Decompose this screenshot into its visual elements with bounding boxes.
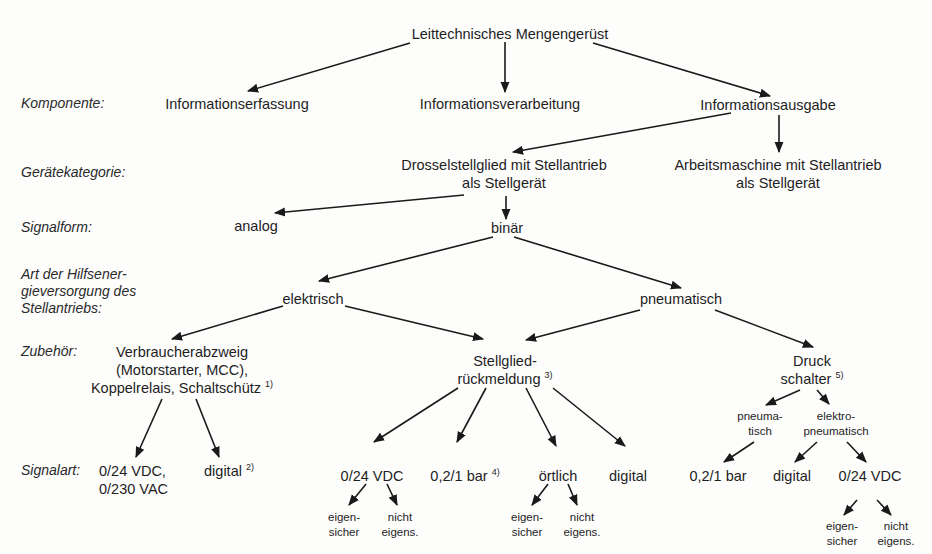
diagram-canvas: Komponente: Gerätekategorie: Signalform:… [0,0,932,554]
footnote-1: 1) [265,379,273,389]
row-label-komponente: Komponente: [21,95,104,112]
eigen-line2: sicher [826,534,858,549]
node-druckschalter: Druck schalter 5) [781,352,844,388]
node-drosselstellglied-line2: als Stellgerät [401,174,607,192]
row-label-signalform: Signalform: [21,219,92,236]
nicht-line2: eigens. [563,525,600,540]
node-pneumatisch-sub: pneuma- tisch [737,409,782,439]
eigen-line1: eigen- [511,510,543,525]
node-vdc-2: 0/24 VDC [341,467,404,485]
node-binaer: binär [491,219,523,237]
nicht-line2: eigens. [381,525,418,540]
node-eigensicher-3: eigen- sicher [826,519,858,549]
node-vdc-vac: 0/24 VDC, 0/230 VAC [99,462,168,498]
arrow-title-ausgabe [593,43,770,96]
eigen-line1: eigen- [826,519,858,534]
node-verbraucher-line3: Koppelrelais, Schaltschütz [91,380,261,396]
arrow-drossel-analog [275,195,464,213]
arrow-druck-elektro [817,390,829,404]
arrow-verbraucher-vdcvac [136,399,162,457]
nicht-line1: nicht [381,510,418,525]
node-informationsverarbeitung: Informationsverarbeitung [420,95,580,113]
node-vdc-vac-line1: 0/24 VDC, [99,462,168,480]
node-elektro-line1: elektro- [803,409,868,424]
node-nicht-eigens-3: nicht eigens. [877,519,914,549]
node-informationsausgabe: Informationsausgabe [700,96,835,114]
node-verbraucher-line1: Verbraucherabzweig [91,343,273,361]
node-digital-1-text: digital [204,463,242,479]
arrow-ausgabe-drossel [513,113,731,152]
node-verbraucherabzweig: Verbraucherabzweig (Motorstarter, MCC), … [91,343,273,397]
node-digital-2: digital [609,467,647,485]
node-nicht-eigens-2: nicht eigens. [563,510,600,540]
node-nicht-eigens-1: nicht eigens. [381,510,418,540]
arrow-vdc3-nicht [877,500,891,515]
node-eigensicher-2: eigen- sicher [511,510,543,540]
node-pneumatisch: pneumatisch [640,290,722,308]
node-bar-2: 0,2/1 bar [689,467,746,485]
arrow-binaer-pneumatisch [514,237,681,288]
node-druck-line1: Druck [781,352,844,370]
arrow-elektrisch-stellglied [345,306,483,339]
arrow-elektrisch-verbraucher [172,306,283,339]
node-eigensicher-1: eigen- sicher [328,510,360,540]
row-label-hilfsenergie-line1: Art der Hilfsener- [21,266,136,283]
node-stellglied-line1: Stellglied- [457,352,552,370]
arrow-stellglied-bar [457,388,486,442]
arrow-title-erfassung [248,43,410,91]
footnote-3: 3) [545,370,553,380]
node-arbeitsmaschine: Arbeitsmaschine mit Stellantrieb als Ste… [674,156,881,192]
nicht-line1: nicht [563,510,600,525]
nicht-line2: eigens. [877,534,914,549]
node-bar-1-text: 0,2/1 bar [430,468,487,484]
footnote-2: 2) [246,462,254,472]
node-vdc-3: 0/24 VDC [839,467,902,485]
row-label-hilfsenergie-line3: Stellantriebs: [21,300,136,317]
arrow-elektro-vdc [847,442,866,462]
node-stellglied-line2: rückmeldung [457,371,540,387]
footnote-4: 4) [492,467,500,477]
arrow-stellglied-digital [553,388,625,446]
node-stellgliedrueckmeldung: Stellglied- rückmeldung 3) [457,352,552,388]
node-vdc-vac-line2: 0/230 VAC [99,480,168,498]
row-label-hilfsenergie: Art der Hilfsener- gieversorgung des Ste… [21,266,136,317]
arrow-elektro-digital [795,442,817,462]
node-verbraucher-line2: (Motorstarter, MCC), [91,361,273,379]
row-label-geraetekategorie: Gerätekategorie: [21,164,125,181]
arrow-pneumatisch-stellglied [526,310,640,340]
arrow-stellglied-oertlich [526,388,556,446]
arrow-pneuma-bar [724,442,754,462]
nicht-line1: nicht [877,519,914,534]
node-elektropneumatisch: elektro- pneumatisch [803,409,868,439]
arrow-binaer-elektrisch [319,237,493,281]
eigen-line2: sicher [511,525,543,540]
arrow-vdc3-eigen [844,500,857,515]
node-arbeitsmaschine-line1: Arbeitsmaschine mit Stellantrieb [674,156,881,174]
node-drosselstellglied-line1: Drosselstellglied mit Stellantrieb [401,156,607,174]
arrow-vdc2-eigen [349,484,366,505]
arrow-pneumatisch-druck [715,310,813,347]
node-arbeitsmaschine-line2: als Stellgerät [674,174,881,192]
arrow-oertlich-eigen [532,484,548,505]
node-drosselstellglied: Drosselstellglied mit Stellantrieb als S… [401,156,607,192]
node-informationserfassung: Informationserfassung [165,95,308,113]
arrow-verbraucher-digital [196,399,219,457]
row-label-hilfsenergie-line2: gieversorgung des [21,283,136,300]
footnote-5: 5) [835,370,843,380]
node-elektrisch: elektrisch [282,290,343,308]
node-oertlich: örtlich [539,467,578,485]
node-pneuma-line1: pneuma- [737,409,782,424]
node-pneuma-line2: tisch [737,424,782,439]
node-analog: analog [234,217,278,235]
arrow-vdc2-nicht [387,484,397,505]
node-digital-1: digital 2) [204,462,254,480]
arrow-oertlich-nicht [568,484,577,505]
node-druck-line2: schalter [781,371,832,387]
eigen-line1: eigen- [328,510,360,525]
diagram-title: Leittechnisches Mengengerüst [412,25,609,43]
arrow-stellglied-vdc [374,388,458,442]
arrow-druck-pneuma [766,390,800,405]
node-elektro-line2: pneumatisch [803,424,868,439]
node-bar-1: 0,2/1 bar 4) [430,467,499,485]
row-label-signalart: Signalart: [21,462,80,479]
